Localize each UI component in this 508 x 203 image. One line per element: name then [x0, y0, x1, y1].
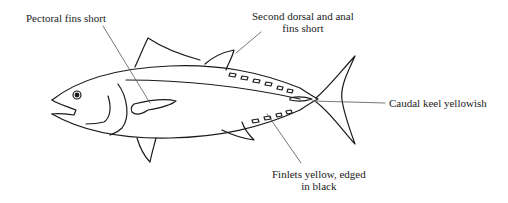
label-second-dorsal-anal: Second dorsal and anal fins short: [252, 10, 354, 34]
gill-line-inner: [86, 96, 110, 124]
caudal-fin: [316, 56, 355, 144]
first-dorsal-fin: [135, 38, 200, 67]
gill-line-outer: [110, 84, 127, 135]
label-caudal-keel: Caudal keel yellowish: [389, 97, 487, 109]
pelvic-fin: [137, 138, 156, 162]
fish-pupil: [75, 93, 79, 97]
caudal-keel: [290, 97, 312, 101]
fish-body-outline: [52, 66, 318, 138]
pectoral-fin: [131, 100, 176, 115]
fish-mouth: [52, 100, 76, 115]
lateral-line: [126, 80, 300, 99]
label-pectoral-fins: Pectoral fins short: [26, 12, 106, 24]
leader-lines: [103, 26, 385, 163]
label-line: Finlets yellow, edged: [272, 168, 366, 180]
label-finlets: Finlets yellow, edged in black: [272, 168, 366, 192]
label-line: Second dorsal and anal: [252, 10, 354, 22]
label-line: in black: [272, 180, 366, 192]
dorsal-finlets: [229, 73, 293, 93]
label-line: fins short: [252, 22, 354, 34]
